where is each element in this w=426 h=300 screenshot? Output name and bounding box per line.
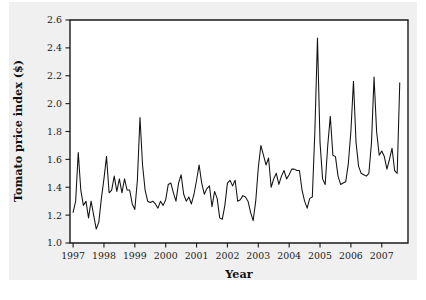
y-tick-label: 1.4 bbox=[47, 182, 62, 193]
plot-area-background bbox=[70, 20, 408, 243]
x-axis-tick-labels: 1997199819992000200120022003200420052006… bbox=[61, 250, 394, 261]
y-axis-tick-labels: 1.01.21.41.61.82.02.22.42.6 bbox=[47, 14, 62, 248]
x-tick-label: 2000 bbox=[154, 250, 178, 261]
y-tick-label: 1.8 bbox=[47, 126, 62, 137]
x-tick-label: 1997 bbox=[61, 250, 85, 261]
y-tick-label: 2.2 bbox=[47, 70, 62, 81]
x-tick-label: 2002 bbox=[215, 250, 239, 261]
x-axis-title: Year bbox=[224, 267, 253, 281]
y-tick-label: 2.4 bbox=[47, 42, 62, 53]
y-tick-label: 1.6 bbox=[47, 154, 62, 165]
x-tick-label: 2007 bbox=[370, 250, 394, 261]
y-axis-title: Tomato price index ($) bbox=[11, 60, 25, 202]
x-tick-label: 1999 bbox=[123, 250, 147, 261]
x-tick-label: 2004 bbox=[277, 250, 301, 261]
x-tick-label: 2006 bbox=[339, 250, 363, 261]
x-tick-label: 2001 bbox=[185, 250, 209, 261]
y-tick-label: 2.6 bbox=[47, 14, 62, 25]
chart-container: 1.01.21.41.61.82.02.22.42.6 199719981999… bbox=[0, 0, 426, 300]
y-tick-label: 2.0 bbox=[47, 98, 62, 109]
x-tick-label: 1998 bbox=[92, 250, 116, 261]
y-tick-label: 1.2 bbox=[47, 210, 62, 221]
tomato-price-index-line-chart: 1.01.21.41.61.82.02.22.42.6 199719981999… bbox=[0, 0, 426, 300]
y-tick-label: 1.0 bbox=[47, 237, 62, 248]
x-tick-label: 2003 bbox=[246, 250, 270, 261]
x-tick-label: 2005 bbox=[308, 250, 332, 261]
